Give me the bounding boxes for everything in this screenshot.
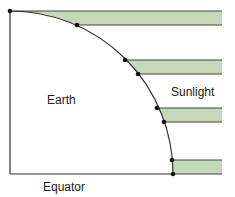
dot-marker [8, 9, 13, 14]
sunlight-label: Sunlight [171, 85, 215, 99]
sunlight-band-2 [125, 60, 222, 74]
dot-marker [136, 72, 141, 77]
earth-surface-curve [10, 11, 173, 174]
sunlight-band-1 [10, 11, 222, 25]
earth-sunlight-diagram: Earth Sunlight Equator [0, 0, 235, 197]
earth-label: Earth [47, 93, 76, 107]
dot-marker [170, 158, 175, 163]
dot-marker [75, 23, 80, 28]
dot-marker [171, 172, 176, 177]
dot-marker [123, 58, 128, 63]
equator-label: Equator [43, 180, 85, 194]
intersection-dots [8, 9, 176, 177]
dot-marker [155, 106, 160, 111]
sunlight-band-4 [172, 160, 222, 174]
sunlight-band-3 [158, 108, 222, 122]
dot-marker [162, 120, 167, 125]
earth-quadrant [10, 11, 173, 174]
